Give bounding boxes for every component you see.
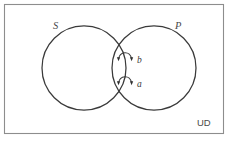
venn-diagram-canvas: b a S P UD: [0, 0, 229, 146]
element-label-b: b: [137, 55, 142, 65]
venn-diagram-figure: b a S P UD: [0, 0, 229, 146]
element-label-a: a: [137, 79, 142, 89]
universe-of-discourse-frame: [5, 5, 224, 134]
set-label-s: S: [53, 20, 59, 31]
universe-of-discourse-label: UD: [197, 117, 211, 128]
set-label-p: P: [174, 20, 182, 31]
